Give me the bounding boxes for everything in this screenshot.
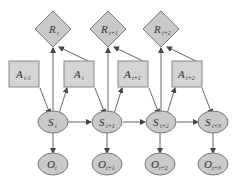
observation-label: O xyxy=(98,158,106,170)
state-label: S xyxy=(48,116,54,128)
reward-sub: t+2 xyxy=(162,30,171,36)
observation-node-1: O t+1 xyxy=(92,153,122,175)
state-label: S xyxy=(99,116,105,128)
action-sub: t-1 xyxy=(24,75,31,81)
action-node-3: A t+2 xyxy=(172,61,202,87)
state-label: S xyxy=(153,116,159,128)
observation-node-0: O t xyxy=(38,153,68,175)
reward-node-0: R t xyxy=(35,11,71,47)
dbn-diagram: R t R t+1 R t+2 A t-1 A t A t+1 A t+2 S … xyxy=(0,0,236,183)
reward-label: R xyxy=(100,23,108,35)
edge-a-t-to-s-t1 xyxy=(95,88,105,114)
edge-a-t1-to-s-t2 xyxy=(149,88,159,114)
action-sub: t+2 xyxy=(186,75,195,81)
action-label: A xyxy=(177,68,185,80)
reward-node-1: R t+1 xyxy=(90,11,126,47)
observation-node-3: O t+3 xyxy=(198,153,228,175)
state-sub: t+2 xyxy=(160,123,169,129)
action-node-0: A t-1 xyxy=(9,61,39,87)
observation-label: O xyxy=(151,158,159,170)
observation-sub: t+2 xyxy=(159,165,168,171)
state-node-2: S t+2 xyxy=(146,111,176,133)
reward-node-2: R t+2 xyxy=(143,11,179,47)
observation-sub: t+3 xyxy=(212,165,221,171)
state-sub: t+3 xyxy=(212,123,221,129)
reward-sub: t+1 xyxy=(109,30,118,36)
action-label: A xyxy=(15,68,23,80)
state-label: S xyxy=(205,116,211,128)
reward-label: R xyxy=(48,23,56,35)
state-node-3: S t+3 xyxy=(198,111,228,133)
state-node-1: S t+1 xyxy=(92,111,122,133)
observation-label: O xyxy=(204,158,212,170)
state-node-0: S t xyxy=(38,111,68,133)
state-sub: t+1 xyxy=(106,123,115,129)
observation-node-2: O t+2 xyxy=(145,153,175,175)
observation-label: O xyxy=(47,158,55,170)
action-label: A xyxy=(123,68,131,80)
edge-a-t-to-r-t xyxy=(59,47,88,61)
action-node-1: A t xyxy=(64,61,94,87)
reward-label: R xyxy=(153,23,161,35)
edge-a-t1-to-r-t1 xyxy=(114,47,143,61)
edge-a-t2-to-s-t3 xyxy=(202,88,212,114)
action-label: A xyxy=(73,68,81,80)
edge-a-t2-to-r-t2 xyxy=(167,47,196,61)
action-sub: t+1 xyxy=(132,75,141,81)
edge-a-tm1-to-s-t xyxy=(40,88,50,114)
observation-sub: t+1 xyxy=(106,165,115,171)
action-node-2: A t+1 xyxy=(118,61,148,87)
